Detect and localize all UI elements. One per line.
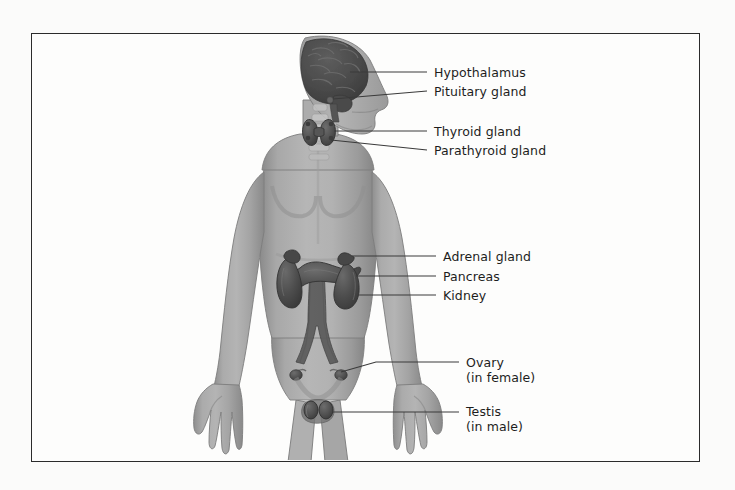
parathyroid-gland-organ bbox=[306, 122, 311, 127]
pelvis bbox=[272, 330, 365, 400]
label-testis-text: Testis bbox=[466, 404, 501, 419]
label-ovary: Ovary (in female) bbox=[466, 355, 535, 385]
label-parathyroid-gland: Parathyroid gland bbox=[434, 143, 546, 158]
label-hypothalamus-text: Hypothalamus bbox=[434, 65, 526, 80]
label-thyroid-gland: Thyroid gland bbox=[434, 124, 521, 139]
pituitary-gland-organ bbox=[327, 97, 334, 104]
label-hypothalamus: Hypothalamus bbox=[434, 65, 526, 80]
label-ovary-text: Ovary bbox=[466, 355, 504, 370]
label-adrenal-gland-text: Adrenal gland bbox=[443, 249, 531, 264]
label-testis-subtext: (in male) bbox=[466, 419, 523, 434]
figure-page: Hypothalamus Pituitary gland Thyroid gla… bbox=[0, 0, 735, 490]
label-parathyroid-gland-text: Parathyroid gland bbox=[434, 143, 546, 158]
label-pancreas: Pancreas bbox=[443, 269, 500, 284]
left-hand bbox=[194, 384, 243, 454]
right-hand bbox=[393, 384, 442, 454]
label-pituitary-gland: Pituitary gland bbox=[434, 84, 527, 99]
label-pancreas-text: Pancreas bbox=[443, 269, 500, 284]
label-kidney-text: Kidney bbox=[443, 288, 486, 303]
left-arm bbox=[214, 172, 264, 390]
label-pituitary-gland-text: Pituitary gland bbox=[434, 84, 527, 99]
label-testis: Testis (in male) bbox=[466, 404, 523, 434]
testes-organ bbox=[302, 400, 334, 424]
label-adrenal-gland: Adrenal gland bbox=[443, 249, 531, 264]
label-thyroid-gland-text: Thyroid gland bbox=[434, 124, 521, 139]
right-arm bbox=[372, 172, 422, 390]
anatomy-diagram bbox=[0, 0, 735, 490]
label-kidney: Kidney bbox=[443, 288, 486, 303]
label-ovary-subtext: (in female) bbox=[466, 370, 535, 385]
